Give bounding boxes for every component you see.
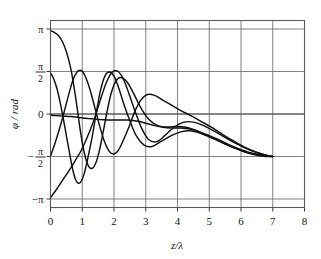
- y-tick-fraction-denominator: 2: [38, 158, 43, 169]
- y-tick-label: −π: [32, 193, 44, 205]
- y-tick-label-text: 0: [38, 108, 44, 120]
- y-tick-label: 0: [38, 108, 44, 120]
- x-tick-label: 4: [175, 215, 181, 227]
- x-tick-label: 5: [207, 215, 213, 227]
- y-axis-title: φ / rad: [8, 99, 20, 129]
- x-axis-title: z/λ: [170, 239, 183, 251]
- y-tick-fraction-denominator: 2: [38, 73, 43, 84]
- x-tick-label: 8: [302, 215, 308, 227]
- y-tick-fraction-numerator: π: [38, 146, 43, 157]
- y-tick-label-text: π: [38, 23, 44, 35]
- x-tick-label: 0: [48, 215, 54, 227]
- y-tick-label-text: −π: [32, 193, 44, 205]
- x-tick-label: 7: [270, 215, 276, 227]
- y-tick-sign: −: [27, 150, 33, 162]
- x-tick-label: 2: [111, 215, 117, 227]
- y-tick-fraction-numerator: π: [38, 61, 43, 72]
- x-tick-label: 6: [238, 215, 244, 227]
- x-tick-label: 1: [80, 215, 86, 227]
- chart-figure: 012345678 ππ20π2−−π z/λ φ / rad: [0, 0, 321, 259]
- y-tick-label: π: [38, 23, 44, 35]
- y-axis-title-text: φ / rad: [8, 99, 20, 129]
- x-tick-label: 3: [143, 215, 149, 227]
- phase-vs-distance-plot: 012345678 ππ20π2−−π z/λ φ / rad: [0, 0, 321, 259]
